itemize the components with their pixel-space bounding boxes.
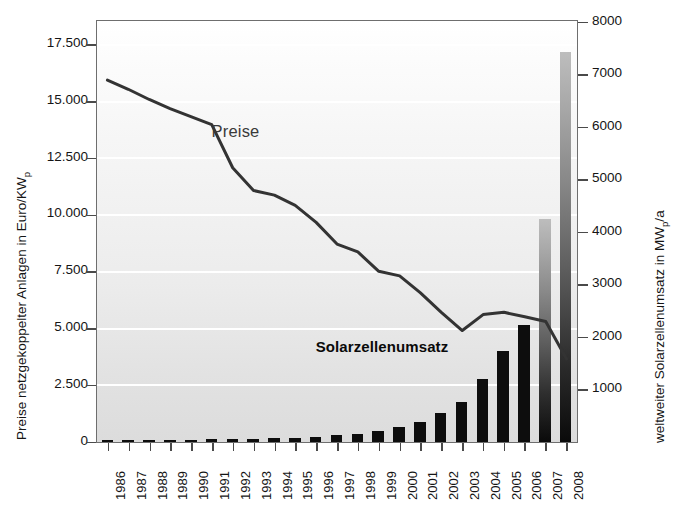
left-tick-label-17500: 17.500 [0, 35, 88, 50]
right-tick-label-6000: 6000 [592, 118, 652, 133]
x-tick-mark-2003 [462, 443, 464, 451]
x-tick-label-1986: 1986 [113, 471, 128, 500]
right-tick-mark [578, 127, 588, 129]
right-tick-label-4000: 4000 [592, 223, 652, 238]
left-axis-title-subscript: p [21, 172, 32, 177]
x-tick-mark-1995 [295, 443, 297, 451]
x-tick-mark-2008 [566, 443, 568, 451]
x-tick-mark-1988 [150, 443, 152, 451]
x-tick-label-1999: 1999 [384, 471, 399, 500]
right-tick-mark [578, 389, 588, 391]
x-tick-label-1988: 1988 [155, 471, 170, 500]
right-axis-title-text: weltweiter Solarzellenumsatz in MW [652, 227, 667, 443]
right-axis-title: weltweiter Solarzellenumsatz in MWp/a [652, 210, 670, 443]
x-tick-mark-2006 [524, 443, 526, 451]
x-tick-mark-2002 [441, 443, 443, 451]
right-axis-title-subscript: p [659, 222, 670, 227]
right-tick-mark [578, 179, 588, 181]
left-tick-mark [86, 44, 96, 46]
price-polyline [107, 80, 566, 359]
right-tick-mark [578, 22, 588, 24]
left-tick-label-10000: 10.000 [0, 205, 88, 220]
x-tick-label-2000: 2000 [405, 471, 420, 500]
x-tick-label-2004: 2004 [488, 471, 503, 500]
right-axis-title-suffix: /a [652, 210, 667, 221]
x-tick-mark-2001 [420, 443, 422, 451]
left-tick-mark [86, 442, 96, 444]
left-tick-mark [86, 158, 96, 160]
x-tick-mark-2007 [545, 443, 547, 451]
left-tick-mark [86, 215, 96, 217]
left-tick-mark [86, 385, 96, 387]
left-tick-mark [86, 271, 96, 273]
annotation-preise: Preise [212, 122, 260, 141]
x-tick-label-1995: 1995 [300, 471, 315, 500]
x-tick-label-2005: 2005 [509, 471, 524, 500]
left-tick-label-5000: 5.000 [0, 319, 88, 334]
x-tick-label-2003: 2003 [467, 471, 482, 500]
right-tick-mark [578, 284, 588, 286]
x-tick-label-1987: 1987 [134, 471, 149, 500]
x-tick-label-2007: 2007 [550, 471, 565, 500]
left-tick-label-15000: 15.000 [0, 92, 88, 107]
x-tick-mark-1990 [191, 443, 193, 451]
x-tick-mark-1999 [379, 443, 381, 451]
x-tick-mark-1993 [254, 443, 256, 451]
right-tick-label-1000: 1000 [592, 380, 652, 395]
x-tick-mark-1991 [212, 443, 214, 451]
right-tick-mark [578, 74, 588, 76]
x-tick-mark-1996 [316, 443, 318, 451]
x-tick-mark-2000 [400, 443, 402, 451]
solar-chart: Preise netzgekoppelter Anlagen in Euro/K… [0, 0, 673, 509]
x-tick-label-1998: 1998 [363, 471, 378, 500]
left-tick-label-2500: 2.500 [0, 376, 88, 391]
x-tick-label-1992: 1992 [238, 471, 253, 500]
x-tick-mark-1986 [108, 443, 110, 451]
left-tick-mark [86, 101, 96, 103]
left-tick-label-12500: 12.500 [0, 149, 88, 164]
x-tick-label-1989: 1989 [175, 471, 190, 500]
x-tick-label-1994: 1994 [280, 471, 295, 500]
x-tick-mark-2004 [483, 443, 485, 451]
x-tick-label-2002: 2002 [446, 471, 461, 500]
line-series-preise [97, 21, 577, 442]
x-tick-label-1991: 1991 [217, 471, 232, 500]
right-tick-label-2000: 2000 [592, 328, 652, 343]
annotation-solarzellenumsatz: Solarzellenumsatz [316, 338, 449, 355]
right-tick-label-8000: 8000 [592, 13, 652, 28]
right-tick-mark [578, 337, 588, 339]
x-tick-label-1993: 1993 [259, 471, 274, 500]
x-tick-label-2001: 2001 [425, 471, 440, 500]
x-tick-label-1997: 1997 [342, 471, 357, 500]
x-tick-label-1990: 1990 [196, 471, 211, 500]
x-tick-mark-1987 [129, 443, 131, 451]
left-tick-label-7500: 7.500 [0, 262, 88, 277]
left-tick-mark [86, 328, 96, 330]
right-tick-label-3000: 3000 [592, 275, 652, 290]
x-tick-mark-1997 [337, 443, 339, 451]
right-tick-label-5000: 5000 [592, 170, 652, 185]
x-tick-mark-1989 [170, 443, 172, 451]
x-tick-label-1996: 1996 [321, 471, 336, 500]
x-tick-mark-1992 [233, 443, 235, 451]
x-tick-label-2006: 2006 [529, 471, 544, 500]
left-tick-label-0: 0 [0, 433, 88, 448]
x-tick-mark-1994 [275, 443, 277, 451]
x-tick-mark-1998 [358, 443, 360, 451]
right-tick-label-7000: 7000 [592, 65, 652, 80]
x-tick-mark-2005 [504, 443, 506, 451]
right-tick-mark [578, 232, 588, 234]
x-tick-label-2008: 2008 [571, 471, 586, 500]
plot-area: Preise Solarzellenumsatz [96, 20, 578, 443]
